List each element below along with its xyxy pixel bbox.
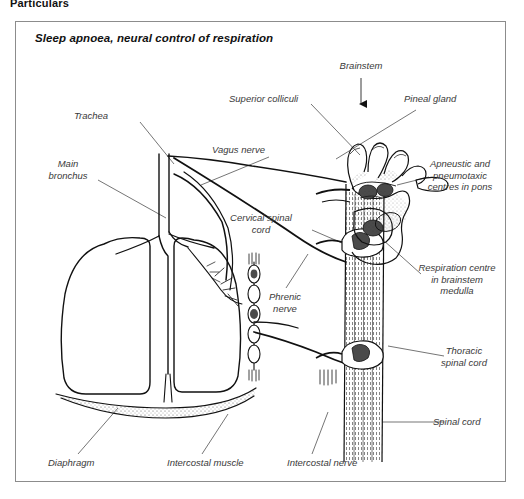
label-spinal-cord: Spinal cord (433, 416, 481, 428)
leader-main-bronchus (98, 180, 166, 218)
vagus-nerve-upper (168, 156, 346, 182)
anatomy-illustration (16, 22, 507, 483)
label-intercostal-muscle: Intercostal muscle (167, 457, 244, 469)
lung-right (174, 238, 241, 392)
leader-lines (78, 78, 444, 454)
label-pineal-gland: Pineal gland (404, 93, 456, 105)
intercostal-nerve-path (254, 332, 352, 366)
thorax-group (56, 154, 352, 418)
sympathetic-chain (248, 253, 260, 381)
label-trachea: Trachea (74, 110, 108, 122)
colliculi-detail (350, 146, 406, 158)
intercostal-nerve-branch (254, 322, 298, 328)
label-main-bronchus: Main bronchus (40, 158, 96, 181)
thoracic-segment (316, 341, 383, 369)
lung-left (61, 238, 150, 394)
label-brainstem: Brainstem (316, 60, 406, 72)
label-intercostal-nerve: Intercostal nerve (287, 457, 357, 469)
leader-intercostal-muscle (202, 414, 228, 454)
figure-frame: Sleep apnoea, neural control of respirat… (15, 21, 506, 482)
trachea-carina-left (159, 236, 168, 374)
page-header-text: Particulars (10, 0, 69, 11)
pulmonary-plexus-fibres-2 (207, 262, 220, 282)
label-cervical-spinal-cord: Cervical spinal cord (218, 212, 304, 235)
leader-phrenic-nerve (286, 254, 308, 288)
label-diaphragm: Diaphragm (48, 457, 94, 469)
label-vagus-nerve: Vagus nerve (212, 144, 265, 156)
label-phrenic-nerve: Phrenic nerve (256, 291, 314, 314)
label-superior-colliculi: Superior colliculi (229, 93, 298, 105)
label-thoracic-spinal-cord: Thoracic spinal cord (428, 345, 500, 368)
phrenic-nerve-path (174, 158, 346, 262)
vertebral-column-left (344, 184, 346, 462)
diaphragm-texture (56, 388, 256, 418)
colliculi-texture-1 (348, 172, 368, 186)
mediastinum (164, 374, 172, 402)
leader-intercostal-nerve (312, 412, 328, 454)
cranial-nerve-out (316, 190, 350, 195)
label-apneustic-pneumotaxic: Apneustic and pneumotaxic centres in pon… (417, 158, 503, 193)
leader-diaphragm (78, 408, 118, 454)
rib-hatching (320, 370, 336, 385)
label-respiration-centre: Respiration centre in brainstem medulla (409, 262, 505, 297)
